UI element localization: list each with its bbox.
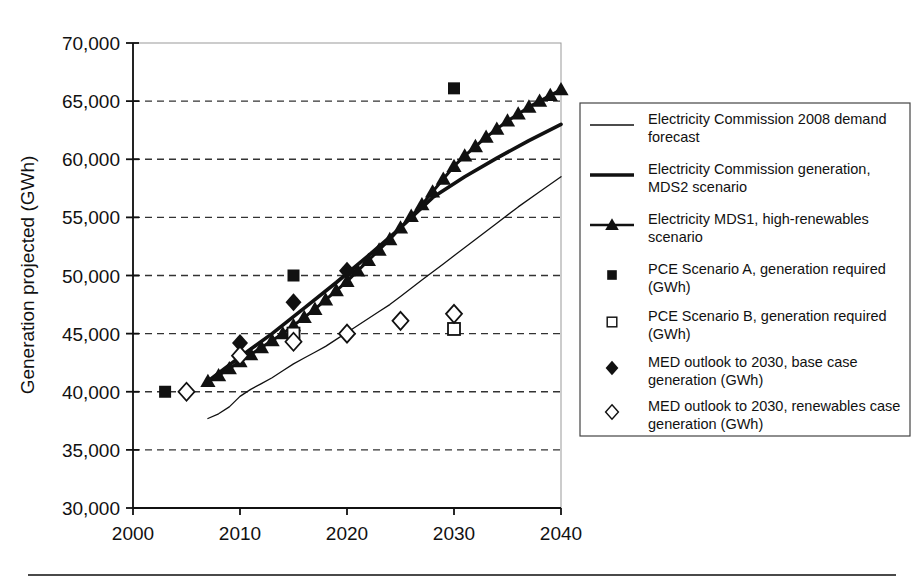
legend-label: MDS2 scenario [648, 179, 747, 195]
marker-filled-square [159, 386, 171, 398]
legend-label: generation (GWh) [648, 416, 763, 432]
legend-label: Electricity MDS1, high-renewables [648, 211, 869, 227]
y-tick-label: 55,000 [62, 207, 120, 228]
legend-label: scenario [648, 229, 703, 245]
y-axis-title: Generation projected (GWh) [17, 156, 38, 395]
marker-filled-square [607, 270, 617, 280]
legend-label: PCE Scenario A, generation required [648, 261, 886, 277]
legend-label: Electricity Commission 2008 demand [648, 111, 887, 127]
y-tick-label: 40,000 [62, 382, 120, 403]
marker-open-square [607, 317, 617, 327]
marker-filled-square [448, 82, 460, 94]
figure-container: 30,00035,00040,00045,00050,00055,00060,0… [0, 0, 924, 588]
legend-label: generation (GWh) [648, 372, 763, 388]
y-tick-label: 45,000 [62, 324, 120, 345]
x-tick-label: 2040 [540, 523, 582, 544]
legend-label: forecast [648, 129, 700, 145]
y-tick-label: 35,000 [62, 440, 120, 461]
legend-label: Electricity Commission generation, [648, 161, 870, 177]
y-tick-label: 30,000 [62, 498, 120, 519]
legend-label: MED outlook to 2030, renewables case [648, 398, 900, 414]
marker-open-square [448, 323, 460, 335]
x-tick-label: 2000 [112, 523, 154, 544]
y-tick-label: 60,000 [62, 149, 120, 170]
y-tick-label: 70,000 [62, 33, 120, 54]
x-tick-label: 2010 [219, 523, 261, 544]
legend-label: PCE Scenario B, generation required [648, 308, 887, 324]
legend-label: MED outlook to 2030, base case [648, 354, 858, 370]
x-tick-label: 2030 [433, 523, 475, 544]
bottom-divider [28, 574, 896, 576]
marker-filled-square [288, 270, 300, 282]
legend-label: (GWh) [648, 279, 691, 295]
y-tick-label: 50,000 [62, 266, 120, 287]
x-tick-label: 2020 [326, 523, 368, 544]
y-tick-label: 65,000 [62, 91, 120, 112]
chart-canvas: 30,00035,00040,00045,00050,00055,00060,0… [0, 0, 924, 588]
legend-label: (GWh) [648, 326, 691, 342]
